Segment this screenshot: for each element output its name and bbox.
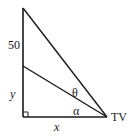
label-50: 50 — [8, 38, 20, 52]
label-y: y — [9, 87, 16, 101]
label-alpha: α — [73, 104, 80, 118]
label-x: x — [53, 120, 60, 134]
lower-sightline — [23, 66, 107, 117]
geometry-diagram: 50 y x θ α TV — [0, 0, 131, 140]
upper-sightline — [23, 8, 107, 117]
label-tv: TV — [111, 110, 127, 124]
label-theta: θ — [72, 86, 78, 100]
